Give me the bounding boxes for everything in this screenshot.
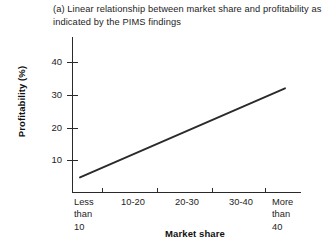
trend-line	[80, 88, 285, 177]
figure-container: (a) Linear relationship between market s…	[0, 0, 326, 245]
trend-line-svg	[0, 0, 326, 245]
